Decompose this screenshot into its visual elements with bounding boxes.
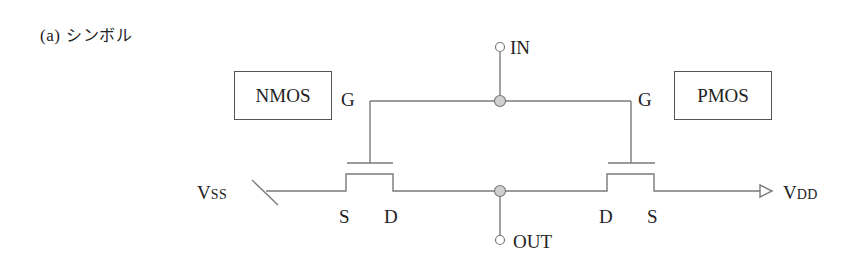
- vdd-arrow-icon: [760, 185, 772, 197]
- pmos-box-label: PMOS: [697, 85, 749, 107]
- vdd-label-sub: DD: [797, 187, 818, 202]
- in-terminal-icon: [496, 43, 505, 52]
- main-rail-wire: [266, 174, 762, 191]
- pmos-drain-label: D: [599, 207, 613, 226]
- nmos-drain-label: D: [384, 207, 398, 226]
- gate-junction-icon: [495, 96, 506, 107]
- vdd-label-main: V: [783, 182, 797, 203]
- out-label: OUT: [513, 232, 552, 251]
- vss-label-sub: SS: [211, 187, 228, 202]
- output-junction-icon: [495, 186, 506, 197]
- circuit-wires: [0, 0, 864, 265]
- vss-label-main: V: [197, 182, 211, 203]
- in-label: IN: [510, 38, 530, 57]
- out-terminal-icon: [496, 236, 505, 245]
- pmos-box: PMOS: [674, 71, 772, 120]
- vdd-label: VDD: [783, 183, 818, 202]
- nmos-box-label: NMOS: [256, 85, 311, 107]
- vss-tick-icon: [252, 180, 278, 205]
- pmos-source-label: S: [647, 207, 658, 226]
- nmos-gate-label: G: [341, 90, 355, 109]
- nmos-source-label: S: [339, 207, 350, 226]
- nmos-box: NMOS: [234, 71, 332, 120]
- vss-label: VSS: [197, 183, 227, 202]
- pmos-gate-label: G: [638, 90, 652, 109]
